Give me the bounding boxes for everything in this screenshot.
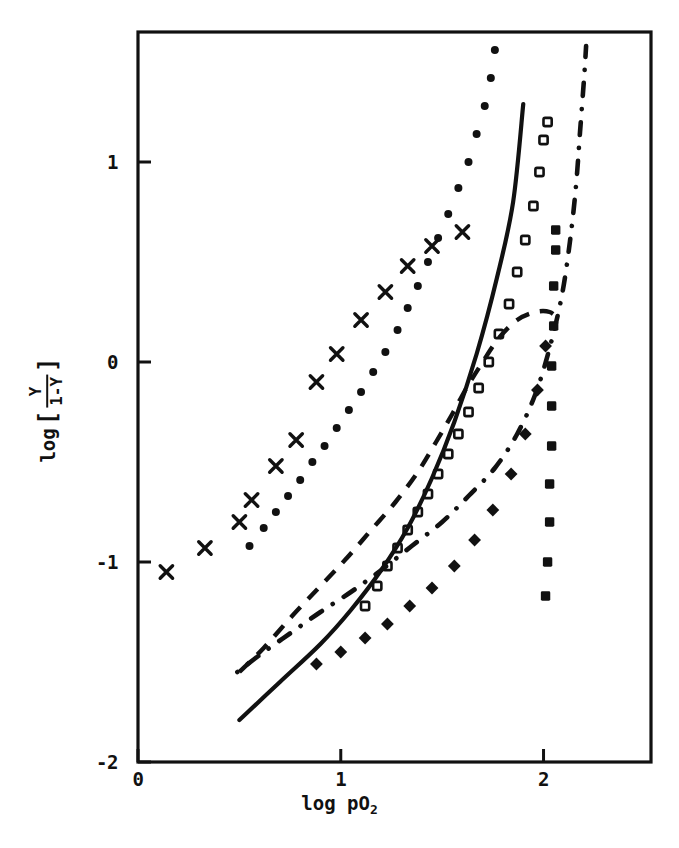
marker-filled-circle <box>394 326 402 334</box>
marker-filled-square <box>549 321 558 330</box>
marker-filled-circle <box>284 492 292 500</box>
y-axis-label-prefix: log <box>37 428 59 462</box>
marker-filled-circle <box>481 102 489 110</box>
marker-filled-circle <box>357 388 365 396</box>
marker-filled-circle <box>487 74 495 82</box>
y-axis-label-numerator: Y <box>28 385 45 399</box>
marker-filled-circle <box>308 458 316 466</box>
figure-background <box>0 0 679 848</box>
marker-filled-circle <box>444 210 452 218</box>
marker-filled-circle <box>491 46 499 54</box>
marker-filled-circle <box>404 304 412 312</box>
y-axis-label-close-bracket: ] <box>34 357 62 371</box>
marker-filled-circle <box>246 542 254 550</box>
marker-filled-square <box>541 591 550 600</box>
marker-filled-circle <box>414 282 422 290</box>
marker-filled-circle <box>333 424 341 432</box>
x-axis-label-base: log pO <box>301 792 370 814</box>
marker-filled-circle <box>465 158 473 166</box>
marker-filled-circle <box>321 442 329 450</box>
marker-filled-circle <box>260 524 268 532</box>
hill-plot-figure <box>0 0 679 848</box>
y-axis-label-denominator: 1-Y <box>49 375 66 408</box>
x-tick-label: 1 <box>335 768 346 790</box>
marker-filled-circle <box>345 406 353 414</box>
marker-filled-circle <box>434 234 442 242</box>
marker-filled-circle <box>369 368 377 376</box>
marker-filled-circle <box>424 258 432 266</box>
marker-filled-circle <box>272 508 280 516</box>
marker-filled-square <box>545 517 554 526</box>
marker-filled-circle <box>454 184 462 192</box>
x-axis-label-subscript: 2 <box>370 802 378 817</box>
y-axis-label-open-bracket: [ <box>34 411 62 425</box>
y-tick-label: -1 <box>60 551 118 573</box>
x-axis-label: log pO2 <box>0 792 679 814</box>
y-axis-label: log [ Y 1-Y ] <box>18 300 78 520</box>
y-tick-label: -2 <box>60 751 118 773</box>
marker-filled-circle <box>381 348 389 356</box>
marker-filled-square <box>543 557 552 566</box>
marker-filled-square <box>545 479 554 488</box>
marker-filled-square <box>551 225 560 234</box>
y-tick-label: 1 <box>60 151 118 173</box>
marker-filled-square <box>549 281 558 290</box>
y-axis-label-fraction: Y 1-Y <box>28 375 66 408</box>
marker-filled-square <box>547 401 556 410</box>
marker-filled-square <box>547 441 556 450</box>
marker-filled-square <box>547 361 556 370</box>
marker-filled-square <box>551 245 560 254</box>
x-tick-label: 0 <box>133 768 144 790</box>
marker-filled-circle <box>473 130 481 138</box>
marker-filled-circle <box>296 476 304 484</box>
x-tick-label: 2 <box>538 768 549 790</box>
